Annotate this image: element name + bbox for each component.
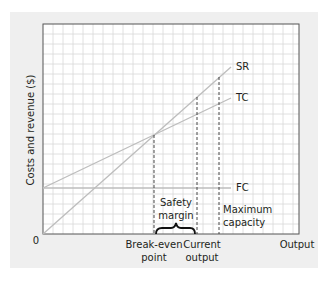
origin-label: 0 <box>33 235 39 246</box>
current-output-label-1: Current <box>183 239 221 250</box>
break-even-label-2: point <box>141 252 167 263</box>
break-even-chart: SR TC FC Safety margin Maximum capacity … <box>0 0 332 281</box>
fc-label: FC <box>236 182 249 193</box>
max-capacity-label-1: Maximum <box>223 204 272 215</box>
max-capacity-label-2: capacity <box>223 217 265 228</box>
tc-label: TC <box>235 92 249 103</box>
sr-label: SR <box>236 61 249 72</box>
y-axis-label: Costs and revenue ($) <box>25 74 36 185</box>
current-output-label-2: output <box>186 252 219 263</box>
break-even-label-1: Break-even <box>126 239 183 250</box>
safety-margin-label-1: Safety <box>160 197 192 208</box>
safety-margin-label-2: margin <box>158 210 193 221</box>
x-axis-label: Output <box>280 239 315 250</box>
